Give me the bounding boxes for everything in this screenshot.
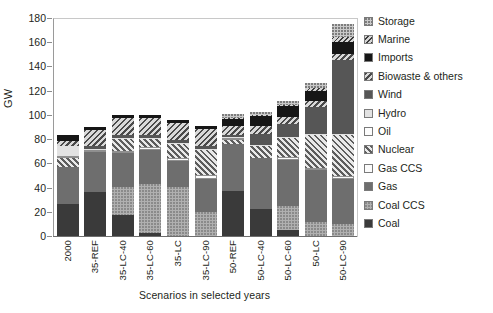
legend-label: Biowaste & others (378, 71, 463, 82)
x-tick-label: 50-LC (309, 240, 320, 266)
x-tick-label: 35-LC-60 (144, 240, 155, 280)
bar-column[interactable] (250, 112, 272, 237)
bar-segment (57, 204, 79, 237)
x-axis-line (53, 236, 357, 237)
legend-swatch-icon (364, 53, 373, 62)
bar-column[interactable] (195, 126, 217, 237)
bar-series-container (54, 19, 357, 237)
x-tick: 35-LC-40 (111, 238, 133, 288)
y-tick-mark (47, 66, 52, 67)
legend-item[interactable]: Imports (364, 49, 490, 67)
y-tick-mark (47, 236, 52, 237)
y-tick-mark (47, 212, 52, 213)
y-tick-label: 180 (12, 13, 46, 23)
bar-segment (305, 222, 327, 237)
legend-swatch-icon (364, 109, 373, 118)
bar-column[interactable] (57, 135, 79, 237)
chart-legend: StorageMarineImportsBiowaste & othersWin… (364, 12, 490, 233)
legend-item[interactable]: Oil (364, 122, 490, 140)
legend-swatch-icon (364, 201, 373, 210)
bar-segment (277, 138, 299, 157)
bar-segment (277, 206, 299, 230)
bar-segment (167, 187, 189, 237)
legend-item[interactable]: Nuclear (364, 141, 490, 159)
legend-item[interactable]: Marine (364, 30, 490, 48)
legend-swatch-icon (364, 17, 373, 26)
bar-segment (332, 179, 354, 224)
bar-segment (195, 179, 217, 212)
x-tick: 35-LC-90 (194, 238, 216, 288)
x-tick-label: 2000 (61, 240, 72, 262)
x-tick-label: 35-REF (89, 240, 100, 273)
bar-segment (112, 118, 134, 135)
bar-segment (167, 161, 189, 188)
bar-segment (112, 139, 134, 151)
x-axis-tick-labels: 200035-REF35-LC-4035-LC-6035-LC35-LC-905… (53, 238, 356, 288)
bar-segment (332, 24, 354, 37)
bar-segment (57, 158, 79, 166)
bar-segment (332, 42, 354, 54)
x-tick-label: 35-LC (171, 240, 182, 266)
legend-swatch-icon (364, 164, 373, 173)
bar-segment (250, 134, 272, 145)
legend-label: Storage (378, 16, 415, 27)
legend-item[interactable]: Biowaste & others (364, 67, 490, 85)
bar-segment (332, 135, 354, 176)
legend-label: Coal (378, 218, 400, 229)
x-tick: 50-LC-40 (249, 238, 271, 288)
bar-column[interactable] (305, 83, 327, 237)
x-tick: 35-REF (83, 238, 105, 288)
legend-item[interactable]: Gas CCS (364, 159, 490, 177)
x-tick-label: 35-LC-90 (199, 240, 210, 280)
bar-segment (222, 126, 244, 134)
x-tick-label: 50-LC-40 (254, 240, 265, 280)
bar-segment (332, 224, 354, 237)
bar-segment (112, 215, 134, 237)
stacked-bar-chart: GW 020406080100120140160180 200035-REF35… (0, 0, 493, 313)
legend-item[interactable]: Gas (364, 178, 490, 196)
bar-segment (222, 144, 244, 191)
bar-column[interactable] (167, 120, 189, 237)
bar-segment (305, 170, 327, 222)
bar-segment (250, 146, 272, 158)
bar-segment (57, 146, 79, 156)
legend-item[interactable]: Coal (364, 214, 490, 232)
plot-area (53, 18, 358, 237)
bar-column[interactable] (139, 115, 161, 237)
bar-column[interactable] (332, 24, 354, 237)
legend-swatch-icon (364, 145, 373, 154)
y-tick-label: 100 (12, 110, 46, 120)
bar-segment (305, 135, 327, 168)
legend-item[interactable]: Wind (364, 86, 490, 104)
bar-segment (167, 123, 189, 140)
bar-column[interactable] (222, 114, 244, 237)
bar-segment (250, 209, 272, 237)
y-tick-label: 60 (12, 158, 46, 168)
legend-label: Coal CCS (378, 200, 425, 211)
x-tick: 35-LC-60 (138, 238, 160, 288)
bar-segment (277, 124, 299, 136)
bar-column[interactable] (112, 115, 134, 237)
y-tick-mark (47, 163, 52, 164)
legend-label: Hydro (378, 108, 406, 119)
x-axis-title: Scenarios in selected years (53, 289, 356, 301)
legend-item[interactable]: Hydro (364, 104, 490, 122)
legend-label: Wind (378, 89, 402, 100)
legend-item[interactable]: Storage (364, 12, 490, 30)
legend-item[interactable]: Coal CCS (364, 196, 490, 214)
bar-segment (167, 144, 189, 159)
bar-column[interactable] (277, 101, 299, 237)
y-tick-label: 0 (12, 231, 46, 241)
y-tick-label: 40 (12, 183, 46, 193)
legend-swatch-icon (364, 35, 373, 44)
bar-column[interactable] (84, 127, 106, 237)
legend-swatch-icon (364, 72, 373, 81)
y-axis-tick-labels: 020406080100120140160180 (12, 0, 46, 313)
x-tick-label: 35-LC-40 (116, 240, 127, 280)
legend-label: Oil (378, 126, 391, 137)
bar-segment (84, 152, 106, 192)
y-tick-mark (47, 91, 52, 92)
y-tick-mark (47, 42, 52, 43)
y-tick-label: 140 (12, 61, 46, 71)
x-tick: 50-LC (304, 238, 326, 288)
